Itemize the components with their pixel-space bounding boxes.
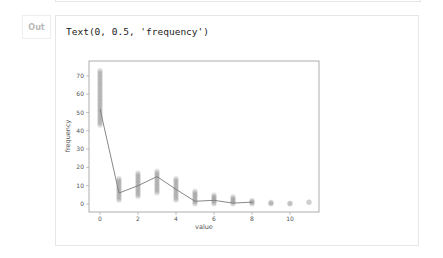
scatter-points [97,68,311,207]
svg-text:4: 4 [174,215,178,222]
x-axis-label: value [195,223,213,231]
svg-text:50: 50 [76,109,84,116]
y-axis-label: frequency [64,120,72,153]
svg-text:10: 10 [286,215,294,222]
svg-text:0: 0 [80,200,84,207]
svg-text:2: 2 [136,215,140,222]
svg-text:8: 8 [250,215,254,222]
mean-line [100,109,252,203]
svg-text:40: 40 [76,127,84,134]
svg-text:60: 60 [76,90,84,97]
svg-text:10: 10 [76,182,84,189]
svg-text:70: 70 [76,72,84,79]
svg-text:0: 0 [98,215,102,222]
svg-text:20: 20 [76,163,84,170]
scatter-plot: 0246810 010203040506070 value frequency [0,0,443,258]
svg-text:30: 30 [76,145,84,152]
svg-text:6: 6 [212,215,216,222]
y-axis-ticks: 010203040506070 [76,72,89,207]
x-axis-ticks: 0246810 [98,212,294,222]
plot-frame [89,61,319,212]
